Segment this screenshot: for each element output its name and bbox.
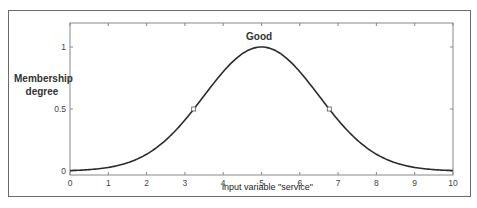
x-tick-label: 3 [183, 178, 188, 188]
x-tick-label: 10 [448, 178, 458, 188]
membership-curve [70, 47, 453, 171]
x-tick-label: 2 [144, 178, 149, 188]
plot-area [70, 23, 453, 175]
crossover-marker [327, 107, 331, 111]
y-axis-label: Membership degree [14, 72, 70, 98]
y-axis-label-line1: Membership [14, 72, 70, 85]
y-tick-label: 0.5 [54, 104, 66, 114]
x-tick-label: 1 [106, 178, 111, 188]
y-tick-label: 1 [61, 42, 66, 52]
x-tick-label: 7 [336, 178, 341, 188]
y-tick-label: 0 [61, 166, 66, 176]
x-tick-label: 0 [68, 178, 73, 188]
x-axis-label: input variable "service" [222, 182, 313, 192]
chart-title: Good [246, 31, 272, 42]
membership-plot: 01234567891000.51 [0, 0, 477, 208]
x-tick-label: 8 [374, 178, 379, 188]
crossover-marker [192, 107, 196, 111]
x-tick-label: 9 [412, 178, 417, 188]
y-axis-label-line2: degree [14, 85, 70, 98]
